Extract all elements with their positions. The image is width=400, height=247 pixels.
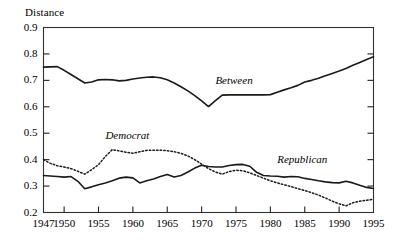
x-tick-label: 1960 [122,217,144,229]
x-tick-label: 1980 [259,217,281,229]
series-label-between: Between [215,74,252,86]
series-label-democrat: Democrat [105,129,149,141]
y-tick-label: 0.3 [6,179,38,191]
y-tick-label: 0.5 [6,126,38,138]
y-tick-label: 0.7 [6,73,38,85]
plot-frame [44,28,374,213]
y-tick-label: 0.4 [6,153,38,165]
x-tick-label: 1950 [53,217,75,229]
x-tick-label: 1995 [363,217,385,229]
y-tick-label: 0.8 [6,47,38,59]
y-tick-label: 0.9 [6,21,38,33]
series-label-republican: Republican [277,153,327,165]
plot-area [0,0,400,247]
series-line-between [44,57,374,107]
distance-line-chart: Distance 0.20.30.40.50.60.70.80.91947195… [0,0,400,247]
x-tick-label: 1965 [156,217,178,229]
y-axis-title: Distance [25,6,64,18]
x-tick-label: 1947 [33,217,55,229]
x-tick-label: 1990 [328,217,350,229]
x-tick-label: 1970 [191,217,213,229]
x-tick-label: 1985 [294,217,316,229]
x-tick-label: 1975 [225,217,247,229]
y-tick-label: 0.6 [6,100,38,112]
x-tick-label: 1955 [88,217,110,229]
